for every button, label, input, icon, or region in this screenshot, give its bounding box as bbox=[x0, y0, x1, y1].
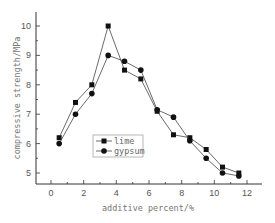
circle-marker bbox=[171, 114, 177, 120]
y-tick-label: 10 bbox=[21, 21, 31, 31]
circle-marker bbox=[105, 53, 111, 59]
circle-marker bbox=[101, 148, 107, 154]
square-marker bbox=[220, 165, 225, 170]
square-marker bbox=[204, 147, 209, 152]
circle-marker bbox=[236, 173, 242, 179]
circle-marker bbox=[56, 141, 62, 147]
y-tick-label: 8 bbox=[26, 80, 31, 90]
series-layer bbox=[56, 24, 241, 179]
circle-marker bbox=[89, 91, 95, 97]
circle-marker bbox=[154, 107, 160, 113]
x-tick-label: 0 bbox=[48, 188, 53, 198]
axes: 0246810125678910 bbox=[21, 12, 262, 198]
square-marker bbox=[171, 132, 176, 137]
circle-marker bbox=[220, 170, 226, 176]
circle-marker bbox=[73, 111, 79, 117]
circle-marker bbox=[122, 58, 128, 64]
x-tick-label: 10 bbox=[209, 188, 219, 198]
legend: limegypsum bbox=[93, 135, 145, 157]
y-axis-title: compressive strength/MPa bbox=[12, 37, 22, 160]
square-marker bbox=[102, 139, 107, 144]
series-lime bbox=[57, 24, 242, 176]
circle-marker bbox=[138, 67, 144, 73]
line-chart: 0246810125678910 limegypsum additive per… bbox=[0, 0, 275, 223]
circle-marker bbox=[187, 138, 193, 144]
square-marker bbox=[57, 135, 62, 140]
x-tick-label: 2 bbox=[81, 188, 86, 198]
square-marker bbox=[106, 24, 111, 29]
legend-label: lime bbox=[114, 136, 134, 146]
series-gypsum bbox=[56, 53, 241, 179]
square-marker bbox=[122, 68, 127, 73]
x-tick-label: 12 bbox=[242, 188, 252, 198]
x-axis-title: additive percent/% bbox=[102, 203, 194, 213]
x-tick-label: 4 bbox=[114, 188, 119, 198]
square-marker bbox=[138, 76, 143, 81]
x-tick-label: 8 bbox=[179, 188, 184, 198]
square-marker bbox=[89, 82, 94, 87]
circle-marker bbox=[203, 156, 209, 162]
y-tick-label: 5 bbox=[26, 168, 31, 178]
y-tick-label: 7 bbox=[26, 109, 31, 119]
y-tick-label: 9 bbox=[26, 50, 31, 60]
x-tick-label: 6 bbox=[146, 188, 151, 198]
legend-label: gypsum bbox=[114, 146, 145, 156]
y-tick-label: 6 bbox=[26, 139, 31, 149]
square-marker bbox=[73, 100, 78, 105]
